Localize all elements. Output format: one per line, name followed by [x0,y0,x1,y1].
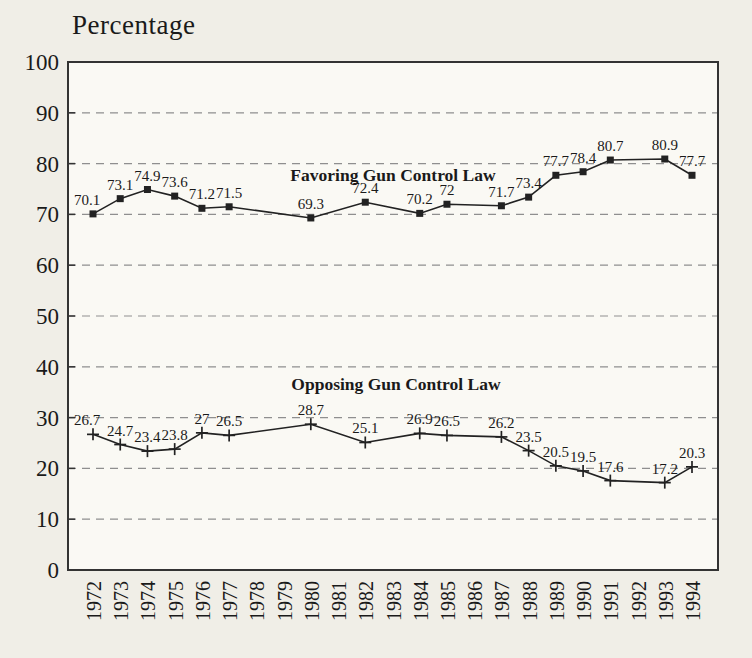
square-marker [90,210,97,217]
x-tick-label: 1972 [83,581,105,621]
y-tick-label: 30 [36,406,59,431]
value-label: 24.7 [107,423,134,439]
square-marker [362,199,369,206]
value-label: 71.7 [488,184,515,200]
y-tick-label: 60 [36,253,59,278]
square-marker [498,202,505,209]
y-tick-label: 40 [36,355,59,380]
square-marker [307,214,314,221]
series-name-label-favoring: Favoring Gun Control Law [290,165,496,185]
value-label: 73.4 [516,175,543,191]
x-tick-label: 1993 [655,581,677,621]
y-tick-label: 70 [36,202,59,227]
value-label: 26.5 [434,413,460,429]
x-tick-label: 1981 [328,581,350,621]
x-tick-label: 1975 [165,581,187,621]
y-tick-label: 0 [48,558,60,583]
x-tick-label: 1979 [274,581,296,621]
square-marker [226,203,233,210]
value-label: 23.5 [516,429,542,445]
value-label: 69.3 [298,196,324,212]
x-tick-label: 1983 [383,581,405,621]
square-marker [171,193,178,200]
y-tick-label: 90 [36,101,59,126]
value-label: 23.8 [162,427,188,443]
square-marker [443,201,450,208]
y-tick-label: 50 [36,304,59,329]
y-tick-label: 100 [25,50,60,75]
line-chart-canvas: 0102030405060708090100197219731974197519… [0,0,752,658]
y-tick-label: 10 [36,507,59,532]
square-marker [117,195,124,202]
x-tick-label: 1977 [219,581,241,621]
value-label: 23.4 [134,429,161,445]
gun-control-opinion-chart-figure: Percentage 01020304050607080901001972197… [0,0,752,658]
x-tick-label: 1990 [573,581,595,621]
value-label: 26.5 [216,413,242,429]
x-tick-label: 1973 [110,581,132,621]
value-label: 80.9 [652,137,678,153]
value-label: 28.7 [298,402,325,418]
value-label: 73.6 [162,174,189,190]
square-marker [416,210,423,217]
series-name-label-opposing: Opposing Gun Control Law [291,374,501,394]
value-label: 17.6 [597,459,624,475]
x-tick-label: 1978 [246,581,268,621]
value-label: 77.7 [543,153,570,169]
value-label: 20.3 [679,445,705,461]
x-tick-label: 1991 [600,581,622,621]
square-marker [607,157,614,164]
y-tick-label: 20 [36,456,59,481]
x-tick-label: 1989 [546,581,568,621]
square-marker [144,186,151,193]
x-tick-label: 1986 [464,581,486,621]
value-label: 70.2 [407,191,433,207]
value-label: 17.2 [652,461,678,477]
value-label: 27 [194,411,210,427]
y-tick-label: 80 [36,152,59,177]
x-tick-label: 1976 [192,581,214,621]
x-tick-label: 1987 [491,581,513,621]
x-tick-label: 1980 [301,581,323,621]
x-tick-label: 1974 [137,581,159,621]
value-label: 73.1 [107,177,133,193]
value-label: 25.1 [352,420,378,436]
square-marker [525,194,532,201]
value-label: 71.2 [189,186,215,202]
value-label: 26.2 [488,415,514,431]
value-label: 26.9 [407,411,433,427]
x-tick-label: 1982 [355,581,377,621]
square-marker [580,168,587,175]
square-marker [552,172,559,179]
value-label: 74.9 [134,168,160,184]
square-marker [689,172,696,179]
value-label: 26.7 [74,412,101,428]
value-label: 70.1 [74,192,100,208]
value-label: 77.7 [679,153,706,169]
value-label: 78.4 [570,150,597,166]
square-marker [198,205,205,212]
value-label: 19.5 [570,449,596,465]
value-label: 71.5 [216,185,242,201]
x-tick-label: 1984 [410,581,432,621]
x-tick-label: 1985 [437,581,459,621]
x-tick-label: 1992 [628,581,650,621]
value-label: 80.7 [597,138,624,154]
value-label: 20.5 [543,444,569,460]
x-tick-label: 1988 [519,581,541,621]
x-tick-label: 1994 [682,581,704,621]
square-marker [661,156,668,163]
